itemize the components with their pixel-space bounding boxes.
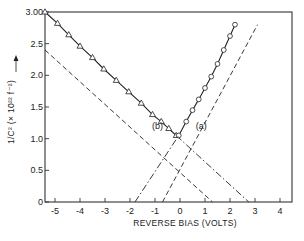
y-axis-title: 1/C² (× 10²² f⁻²) — [6, 80, 16, 144]
y-axis-arrow-icon — [14, 55, 19, 72]
chart-canvas: -5-4-3-2-101234 00.51.01.52.02.53.00 (b)… — [0, 0, 304, 241]
y-tick-label: 1.5 — [30, 102, 43, 112]
circle-marker-icon — [215, 62, 220, 67]
curve-labels: (b)(a) — [152, 121, 207, 131]
curve-label: (a) — [196, 121, 207, 131]
series--b-extrapolation — [176, 136, 249, 203]
series--b-dashed-parallel — [45, 50, 213, 202]
x-tick-label: -2 — [126, 206, 134, 216]
x-tick-label: -5 — [51, 206, 59, 216]
plot-series — [42, 9, 258, 202]
series--a-dashed-parallel — [163, 25, 258, 202]
circle-marker-icon — [184, 119, 189, 124]
y-axis-title-group: 1/C² (× 10²² f⁻²) — [6, 80, 16, 144]
series--b-measured — [42, 9, 179, 138]
x-tick-label: 3 — [252, 206, 257, 216]
x-tick-label: 4 — [277, 206, 282, 216]
circle-marker-icon — [233, 22, 238, 27]
y-tick-label: 3.00 — [25, 7, 43, 17]
x-tick-label: 0 — [177, 206, 182, 216]
y-tick-label: 2.0 — [30, 70, 43, 80]
circle-marker-icon — [203, 86, 208, 91]
series--a-extrapolation — [135, 136, 179, 203]
y-tick-label: 0.5 — [30, 165, 43, 175]
x-tick-label: 1 — [202, 206, 207, 216]
curve-label: (b) — [152, 121, 163, 131]
plot-frame — [45, 12, 292, 202]
circle-marker-icon — [221, 48, 226, 53]
circle-marker-icon — [196, 97, 201, 102]
y-tick-label: 1.0 — [30, 134, 43, 144]
x-tick-label: -4 — [76, 206, 84, 216]
y-tick-label: 2.5 — [30, 39, 43, 49]
circle-marker-icon — [228, 34, 233, 39]
circle-marker-icon — [190, 108, 195, 113]
x-tick-label: 2 — [227, 206, 232, 216]
x-tick-label: -3 — [101, 206, 109, 216]
circle-marker-icon — [209, 74, 214, 79]
x-tick-label: -1 — [151, 206, 159, 216]
circle-marker-icon — [176, 133, 181, 138]
y-tick-label: 0 — [38, 197, 43, 207]
x-axis-title: REVERSE BIAS (VOLTS) — [133, 218, 237, 228]
